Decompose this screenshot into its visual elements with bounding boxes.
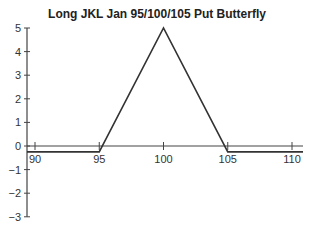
plot-area: 543210−1−2−39095100105110 (0, 0, 314, 236)
y-tick-label: 3 (15, 69, 21, 81)
x-tick-label: 90 (29, 153, 41, 165)
chart: Long JKL Jan 95/100/105 Put Butterfly 54… (0, 0, 314, 236)
y-tick-label: 2 (15, 93, 21, 105)
y-tick-label: −3 (8, 211, 21, 223)
y-tick-label: −2 (8, 187, 21, 199)
y-tick-label: 0 (15, 140, 21, 152)
y-tick-label: 5 (15, 22, 21, 34)
x-tick-label: 95 (93, 153, 105, 165)
y-tick-label: −1 (8, 164, 21, 176)
payoff-line (27, 28, 303, 152)
y-tick-label: 4 (15, 46, 21, 58)
x-tick-label: 105 (219, 153, 237, 165)
x-tick-label: 110 (283, 153, 301, 165)
x-tick-label: 100 (154, 153, 172, 165)
y-tick-label: 1 (15, 116, 21, 128)
